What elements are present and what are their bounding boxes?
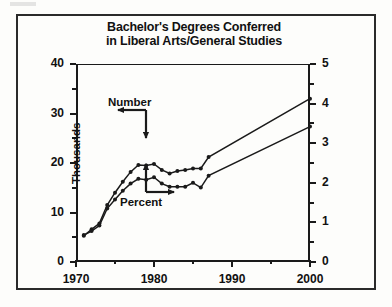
scan-artifact xyxy=(10,2,36,6)
tick-label-right: 1 xyxy=(322,214,348,228)
tick-right-major xyxy=(310,142,316,144)
chart-title-line1: Bachelor's Degrees Conferred xyxy=(76,20,312,34)
tick-label-left: 30 xyxy=(24,106,64,120)
tick-label-left: 10 xyxy=(24,205,64,219)
tick-right-minor xyxy=(310,122,314,124)
annotation-arrows-layer xyxy=(76,64,310,262)
tick-label-right: 0 xyxy=(322,254,348,268)
tick-label-left: 40 xyxy=(24,56,64,70)
chart-title-line2: in Liberal Arts/General Studies xyxy=(76,34,312,48)
tick-label-right: 3 xyxy=(322,135,348,149)
tick-label-right: 5 xyxy=(322,56,348,70)
tick-right-minor xyxy=(310,162,314,164)
tick-label-right: 2 xyxy=(322,175,348,189)
annotation-number: Number xyxy=(108,96,151,108)
tick-label-x: 1970 xyxy=(46,272,106,286)
tick-label-x: 1980 xyxy=(124,272,184,286)
plot-area: 0102030400123451970198019902000 Number P… xyxy=(76,64,310,262)
tick-right-major xyxy=(310,182,316,184)
tick-label-left: 20 xyxy=(24,155,64,169)
tick-right-minor xyxy=(310,241,314,243)
tick-label-right: 4 xyxy=(322,96,348,110)
chart-title: Bachelor's Degrees Conferred in Liberal … xyxy=(76,20,312,48)
left-axis-title: Thousands xyxy=(70,123,82,184)
chart-figure: Bachelor's Degrees Conferred in Liberal … xyxy=(0,0,392,307)
tick-right-minor xyxy=(310,83,314,85)
tick-label-x: 2000 xyxy=(280,272,340,286)
annotation-percent: Percent xyxy=(120,196,162,208)
tick-right-major xyxy=(310,221,316,223)
tick-right-minor xyxy=(310,202,314,204)
tick-label-left: 0 xyxy=(24,254,64,268)
tick-right-major xyxy=(310,103,316,105)
tick-label-x: 1990 xyxy=(202,272,262,286)
tick-right-major xyxy=(310,63,316,65)
